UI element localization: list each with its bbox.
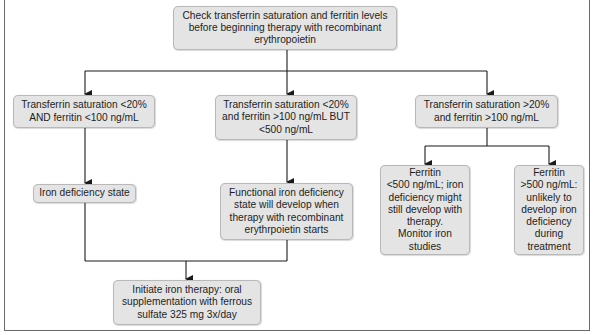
branch-2-condition: Transferrin saturation <20% and ferritin… [222, 99, 350, 136]
functional-iron-deficiency-box: Functional iron deficiency state will de… [220, 183, 353, 240]
branch-2-outcome: Functional iron deficiency state will de… [229, 187, 344, 236]
branch-3-condition: Transferrin saturation >20% and ferritin… [424, 99, 550, 124]
branch-3-sub-outcome-1: Ferritin <500 ng/mL; iron deficiency mig… [387, 167, 464, 253]
branch-1-condition: Transferrin saturation <20% AND ferritin… [21, 99, 147, 124]
branch-low-sat-low-ferritin-box: Transferrin saturation <20% AND ferritin… [13, 95, 155, 128]
branch-low-sat-mid-ferritin-box: Transferrin saturation <20% and ferritin… [215, 95, 357, 140]
iron-deficiency-state-box: Iron deficiency state [33, 184, 136, 203]
branch-3-sub-outcome-2: Ferritin >500 ng/mL: unlikely to develop… [521, 167, 578, 253]
start-box: Check transferrin saturation and ferriti… [173, 6, 397, 50]
connector-lines [0, 0, 594, 335]
initiate-iron-therapy-box: Initiate iron therapy: oral supplementat… [113, 280, 261, 325]
ferritin-over-500-box: Ferritin >500 ng/mL: unlikely to develop… [514, 165, 584, 255]
final-text: Initiate iron therapy: oral supplementat… [122, 284, 252, 321]
branch-1-outcome: Iron deficiency state [39, 187, 130, 199]
start-text: Check transferrin saturation and ferriti… [183, 10, 388, 47]
ferritin-under-500-box: Ferritin <500 ng/mL; iron deficiency mig… [380, 165, 470, 255]
branch-high-sat-high-ferritin-box: Transferrin saturation >20% and ferritin… [415, 95, 558, 128]
